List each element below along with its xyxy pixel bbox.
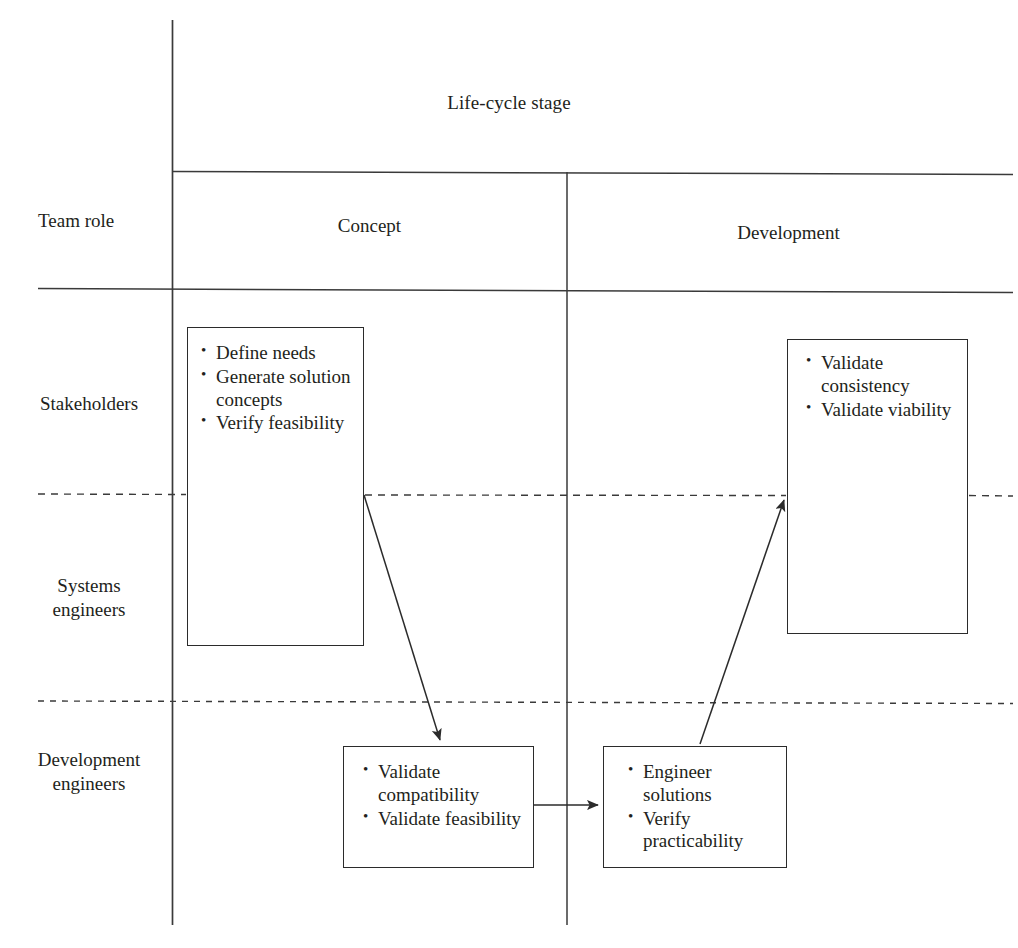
activity-item: Validate compatibility — [361, 761, 529, 807]
activity-item: Verify feasibility — [199, 412, 357, 435]
row-divider-stakeholders-systems-left — [38, 494, 186, 495]
activity-item: Define needs — [199, 342, 357, 365]
row-label-development-engineers: Developmentengineers — [10, 748, 168, 797]
column-header-concept: Concept — [172, 215, 567, 237]
activity-item: Verify practicability — [626, 808, 782, 854]
columns-axis-title: Life-cycle stage — [0, 92, 1018, 114]
rows-axis-title: Team role — [38, 210, 168, 232]
header-rule-top — [172, 172, 1013, 175]
lifecycle-team-role-matrix: Life-cycle stage Team role Concept Devel… — [0, 0, 1018, 948]
row-divider-stakeholders-systems-mid — [365, 495, 786, 496]
arrow-dev-development-to-stakeholder-development — [700, 500, 784, 744]
activity-box-development-engineers-concept: Validate compatibility Validate feasibil… — [343, 746, 534, 868]
row-divider-systems-development — [38, 701, 1013, 704]
row-label-systems-engineers: Systemsengineers — [10, 574, 168, 623]
activity-list: Validate consistency Validate viability — [788, 340, 967, 421]
activity-list: Validate compatibility Validate feasibil… — [344, 747, 533, 830]
activity-item: Validate feasibility — [361, 808, 529, 831]
row-label-stakeholders: Stakeholders — [10, 392, 168, 416]
activity-box-stakeholders-concept: Define needs Generate solution concepts … — [187, 327, 364, 646]
activity-list: Engineer solutions Verify practicability — [604, 747, 786, 853]
activity-item: Generate solution concepts — [199, 366, 357, 412]
column-header-development: Development — [567, 222, 1010, 244]
activity-item: Validate viability — [804, 399, 961, 422]
activity-box-stakeholders-development: Validate consistency Validate viability — [787, 339, 968, 634]
activity-item: Validate consistency — [804, 352, 961, 398]
row-divider-stakeholders-systems-right — [969, 496, 1013, 497]
activity-item: Engineer solutions — [626, 761, 782, 807]
activity-box-development-engineers-development: Engineer solutions Verify practicability — [603, 746, 787, 868]
activity-list: Define needs Generate solution concepts … — [188, 328, 363, 435]
header-rule-bottom — [38, 289, 1013, 293]
arrow-concept-to-dev-concept — [364, 495, 440, 740]
